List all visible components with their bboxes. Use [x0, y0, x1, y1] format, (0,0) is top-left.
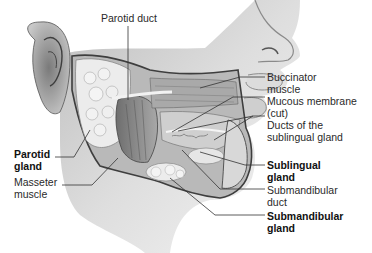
label-sublingual-gland: Sublingual gland [267, 159, 321, 183]
label-submandibular-gland: Submandibular gland [267, 210, 343, 234]
label-parotid-gland: Parotid gland [14, 148, 50, 172]
ear [28, 22, 70, 114]
label-buccinator-muscle: Buccinator muscle [267, 71, 317, 95]
label-parotid-duct: Parotid duct [101, 12, 157, 24]
label-submandibular-duct: Submandibular duct [267, 184, 338, 208]
label-ducts-of-sublingual-gland: Ducts of the sublingual gland [267, 119, 343, 143]
label-masseter-muscle: Masseter muscle [14, 176, 57, 200]
label-mucous-membrane: Mucous membrane (cut) [267, 95, 357, 119]
